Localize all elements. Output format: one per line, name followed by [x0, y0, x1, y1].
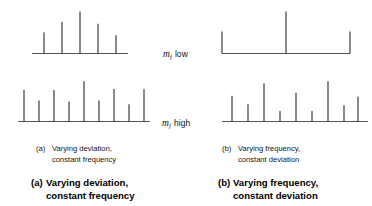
spectrum-svg-bottom-left [14, 76, 154, 124]
outer-caption-b: (b)Varying frequency, constant deviation [218, 176, 318, 202]
spectrum-svg-top-right [218, 8, 360, 56]
spectrum-plot-varying-frequency-mf-high [218, 76, 360, 124]
mf-variable-high: m [162, 118, 169, 128]
outer-caption-a-line2: constant frequency [31, 189, 135, 202]
spectrum-plot-varying-deviation-mf-low [14, 8, 154, 56]
mf-variable-low: m [163, 49, 170, 59]
mf-qualifier-high: high [174, 118, 190, 128]
modulation-index-high-label: mfhigh [162, 118, 190, 129]
inner-caption-b-line1: Varying frequency, [238, 144, 300, 153]
spectrum-svg-bottom-right [218, 76, 360, 124]
outer-caption-b-line2: constant deviation [218, 189, 318, 202]
spectrum-svg-top-left [14, 8, 154, 56]
outer-caption-a-line1: Varying deviation, [46, 177, 128, 188]
mf-subscript-high: f [169, 122, 171, 129]
modulation-index-low-label: mflow [163, 49, 188, 60]
mf-qualifier-low: low [175, 49, 188, 59]
outer-caption-a: (a)Varying deviation, constant frequency [31, 176, 135, 202]
inner-caption-b-tag: (b) [222, 144, 238, 155]
inner-caption-a-line2: constant frequency [36, 155, 116, 166]
figure-root: mflow mfhigh (a)Varying deviation, const… [0, 0, 372, 206]
inner-caption-a-tag: (a) [36, 144, 52, 155]
mf-subscript-low: f [170, 53, 172, 60]
inner-caption-b: (b)Varying frequency, constant deviation [222, 144, 300, 165]
inner-caption-b-line2: constant deviation [222, 155, 300, 166]
spectrum-plot-varying-frequency-mf-low [218, 8, 360, 56]
inner-caption-a-line1: Varying deviation, [52, 144, 112, 153]
outer-caption-b-line1: Varying frequency, [233, 177, 318, 188]
spectrum-plot-varying-deviation-mf-high [14, 76, 154, 124]
outer-caption-b-tag: (b) [218, 176, 233, 189]
outer-caption-a-tag: (a) [31, 176, 46, 189]
inner-caption-a: (a)Varying deviation, constant frequency [36, 144, 116, 165]
